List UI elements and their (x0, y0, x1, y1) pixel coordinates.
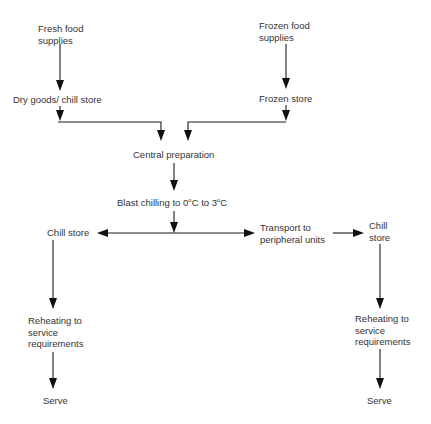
node-chill-store-peripheral: Chill store (369, 220, 390, 243)
node-reheating-central-line3: requirements (28, 338, 83, 350)
arrow-split-horizontal (97, 229, 255, 237)
node-reheating-central: Reheating to service requirements (28, 315, 83, 350)
arrow-central-to-blast (170, 163, 178, 191)
arrow-frozenfood-to-frozenstore (282, 44, 290, 89)
node-chill-store-peripheral-line1: Chill (369, 220, 390, 232)
node-fresh-food-line1: Fresh food (38, 23, 83, 35)
node-frozen-food-supplies: Frozen food supplies (259, 20, 310, 43)
flow-connectors (0, 0, 431, 424)
node-transport-line1: Transport to (260, 222, 325, 234)
node-fresh-food-line2: supplies (38, 35, 83, 47)
arrow-reheat-to-serve-right (376, 349, 384, 389)
node-serve-central: Serve (43, 395, 68, 407)
node-chill-store-peripheral-line2: store (369, 232, 390, 244)
arrow-blast-to-split (170, 211, 178, 233)
node-frozen-food-line1: Frozen food (259, 20, 310, 32)
node-reheating-peripheral-line1: Reheating to (355, 313, 410, 325)
blast-mid: C to 3 (192, 197, 217, 208)
blast-prefix: Blast chilling to 0 (117, 197, 188, 208)
node-blast-chilling: Blast chilling to 0oC to 3oC (117, 197, 227, 209)
node-reheating-peripheral-line2: service (355, 325, 410, 337)
node-frozen-food-line2: supplies (259, 32, 310, 44)
node-serve-peripheral: Serve (367, 395, 392, 407)
arrow-transport-to-chillstore (333, 229, 364, 237)
node-dry-goods-chill-store: Dry goods/ chill store (13, 94, 102, 106)
node-reheating-central-line1: Reheating to (28, 315, 83, 327)
blast-suffix: C (220, 197, 227, 208)
node-reheating-peripheral: Reheating to service requirements (355, 313, 410, 348)
node-reheating-peripheral-line3: requirements (355, 336, 410, 348)
arrow-fresh-to-drygoods (56, 44, 64, 91)
node-chill-store-central: Chill store (47, 227, 89, 239)
node-transport-peripheral: Transport to peripheral units (260, 222, 325, 245)
arrow-drygoods-to-central (56, 106, 165, 141)
node-reheating-central-line2: service (28, 327, 83, 339)
node-transport-line2: peripheral units (260, 234, 325, 246)
arrow-chillstore-to-reheat-right (376, 244, 384, 309)
arrow-frozenstore-to-central (184, 105, 290, 141)
arrow-chillstore-to-reheat-left (49, 240, 57, 309)
node-central-preparation: Central preparation (133, 149, 214, 161)
node-frozen-store: Frozen store (259, 93, 312, 105)
arrow-reheat-to-serve-left (49, 352, 57, 389)
node-fresh-food-supplies: Fresh food supplies (38, 23, 83, 46)
